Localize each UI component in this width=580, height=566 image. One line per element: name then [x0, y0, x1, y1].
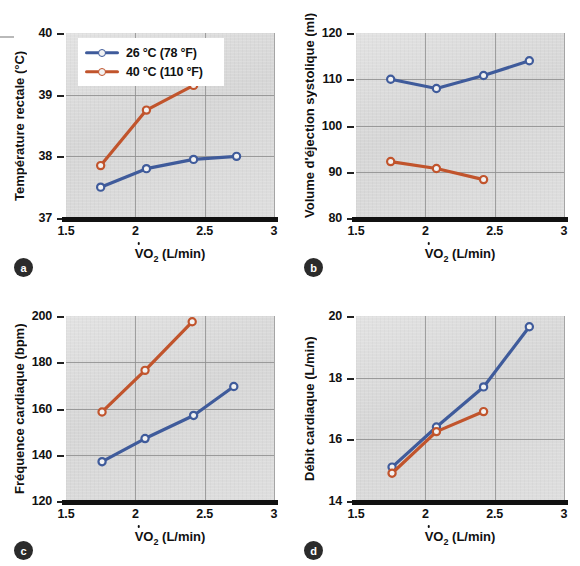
legend-label: 40 °C (110 °F) — [126, 65, 203, 79]
data-point-marker — [433, 428, 440, 435]
series-line — [392, 327, 529, 467]
legend-item-cool: 26 °C (78 °F) — [85, 43, 215, 62]
data-series-layer — [0, 283, 290, 566]
four-panel-figure: 373839401.522.53VO2 (L/min)Température r… — [0, 0, 580, 566]
data-point-marker — [526, 57, 533, 64]
data-point-marker — [480, 383, 487, 390]
series-line — [391, 61, 530, 89]
data-point-marker — [233, 153, 240, 160]
series-line — [101, 85, 194, 165]
data-point-marker — [433, 85, 440, 92]
legend-swatch-cool — [85, 47, 119, 59]
data-point-marker — [98, 458, 105, 465]
data-point-marker — [190, 156, 197, 163]
data-point-marker — [143, 165, 150, 172]
data-point-marker — [141, 435, 148, 442]
data-point-marker — [387, 76, 394, 83]
data-point-marker — [433, 165, 440, 172]
data-point-marker — [480, 176, 487, 183]
data-point-marker — [97, 162, 104, 169]
series-line — [392, 412, 484, 474]
legend-label: 26 °C (78 °F) — [126, 46, 197, 60]
legend-item-hot: 40 °C (110 °F) — [85, 62, 215, 81]
data-series-layer — [290, 0, 580, 283]
data-series-layer — [290, 283, 580, 566]
data-point-marker — [387, 158, 394, 165]
data-point-marker — [98, 408, 105, 415]
panel-d: 141618201.522.53VO2 (L/min)Débit cardiaq… — [290, 283, 580, 566]
panel-b: 80901001101201.522.53VO2 (L/min)Volume d… — [290, 0, 580, 283]
panel-c: 1201401601802001.522.53VO2 (L/min)Fréque… — [0, 283, 290, 566]
series-line — [101, 156, 237, 187]
data-point-marker — [526, 323, 533, 330]
data-point-marker — [143, 106, 150, 113]
data-point-marker — [97, 184, 104, 191]
legend: 26 °C (78 °F)40 °C (110 °F) — [78, 38, 224, 86]
data-point-marker — [230, 383, 237, 390]
data-point-marker — [189, 318, 196, 325]
panel-a: 373839401.522.53VO2 (L/min)Température r… — [0, 0, 290, 283]
series-line — [102, 387, 234, 462]
data-point-marker — [388, 470, 395, 477]
data-point-marker — [190, 412, 197, 419]
legend-swatch-hot — [85, 66, 119, 78]
data-point-marker — [141, 367, 148, 374]
data-point-marker — [480, 408, 487, 415]
data-point-marker — [480, 72, 487, 79]
